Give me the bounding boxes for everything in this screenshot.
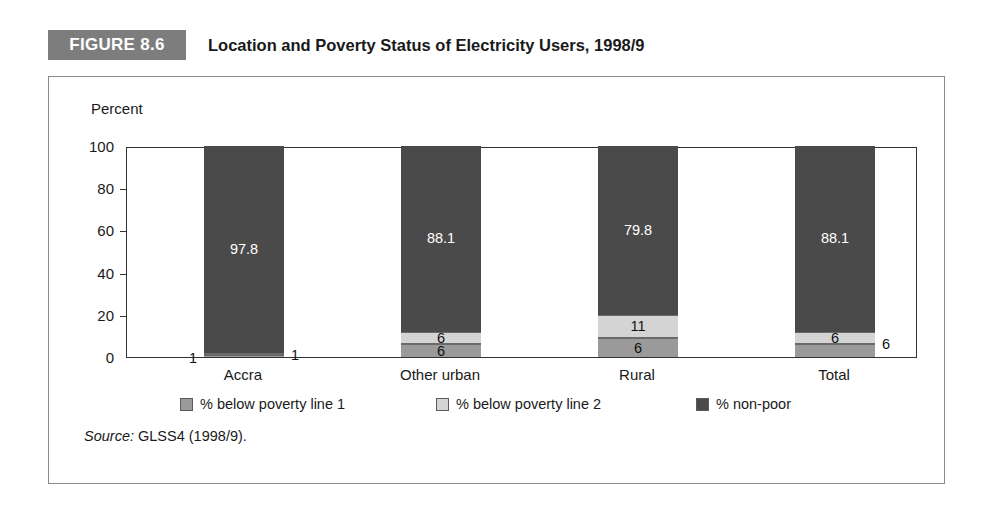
chart-legend: % below poverty line 1% below poverty li… [126, 396, 917, 416]
source-note: Source: GLSS4 (1998/9). [84, 428, 247, 444]
figure-frame [48, 76, 945, 484]
legend-swatch-icon [696, 398, 709, 411]
figure-header: FIGURE 8.6 Location and Poverty Status o… [48, 30, 645, 60]
legend-swatch-icon [180, 398, 193, 411]
legend-label: % below poverty line 1 [200, 396, 345, 412]
legend-label: % non-poor [716, 396, 791, 412]
figure-number-badge: FIGURE 8.6 [48, 30, 186, 60]
legend-swatch-icon [436, 398, 449, 411]
legend-item-3[interactable]: % non-poor [696, 396, 791, 412]
legend-item-1[interactable]: % below poverty line 1 [180, 396, 345, 412]
legend-item-2[interactable]: % below poverty line 2 [436, 396, 601, 412]
source-text: GLSS4 (1998/9). [138, 428, 247, 444]
legend-label: % below poverty line 2 [456, 396, 601, 412]
source-label: Source: [84, 428, 134, 444]
figure-title: Location and Poverty Status of Electrici… [186, 30, 645, 60]
